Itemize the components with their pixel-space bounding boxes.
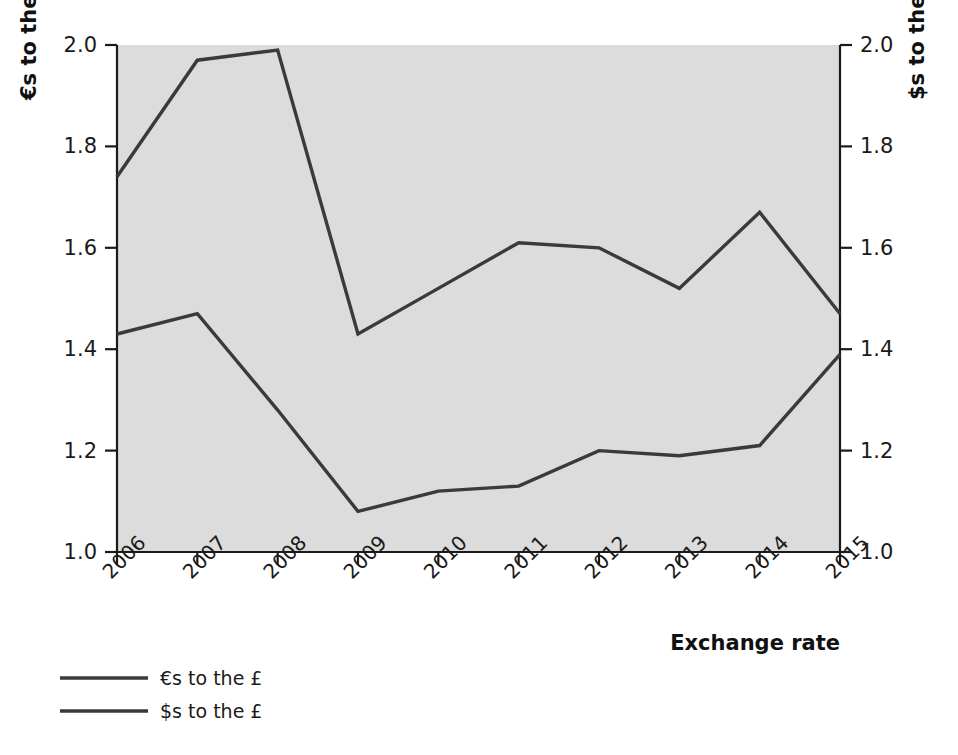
chart-legend: €s to the £$s to the £ xyxy=(60,667,262,722)
left-tick-label: 2.0 xyxy=(64,33,97,57)
left-tick-label: 1.0 xyxy=(64,540,97,564)
right-tick-label: 1.6 xyxy=(860,236,893,260)
left-tick-label: 1.6 xyxy=(64,236,97,260)
chart-figure: 1.01.21.41.61.82.0 1.01.21.41.61.82.0 20… xyxy=(0,0,958,755)
exchange-rate-line-chart: 1.01.21.41.61.82.0 1.01.21.41.61.82.0 20… xyxy=(0,0,958,755)
left-axis-tick-labels: 1.01.21.41.61.82.0 xyxy=(64,33,97,564)
plot-area-background xyxy=(117,45,840,552)
right-axis-title: $s to the £ xyxy=(905,0,929,100)
legend-label: $s to the £ xyxy=(160,700,262,722)
bottom-axis-ticks xyxy=(117,552,840,564)
right-axis-tick-labels: 1.01.21.41.61.82.0 xyxy=(860,33,893,564)
right-tick-label: 1.2 xyxy=(860,439,893,463)
right-tick-label: 1.8 xyxy=(860,134,893,158)
left-tick-label: 1.2 xyxy=(64,439,97,463)
left-tick-label: 1.4 xyxy=(64,337,97,361)
right-axis-ticks xyxy=(840,45,852,552)
right-tick-label: 1.4 xyxy=(860,337,893,361)
left-tick-label: 1.8 xyxy=(64,134,97,158)
right-tick-label: 2.0 xyxy=(860,33,893,57)
legend-label: €s to the £ xyxy=(160,667,262,689)
x-axis-title: Exchange rate xyxy=(670,631,840,655)
left-axis-ticks xyxy=(105,45,117,552)
left-axis-title: €s to the £ xyxy=(17,0,41,101)
